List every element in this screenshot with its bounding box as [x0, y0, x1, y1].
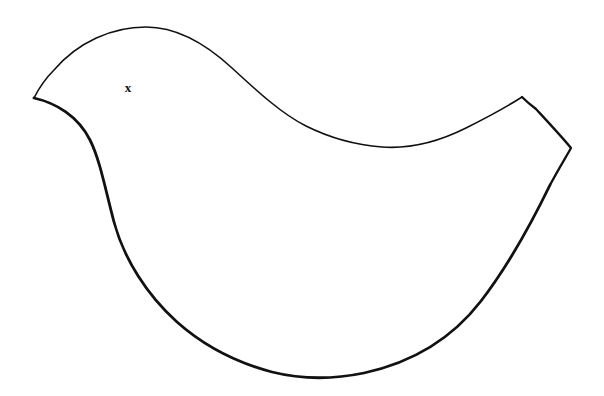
eye-x-mark: x	[125, 80, 132, 95]
bird-outline-drawing: x	[0, 0, 604, 396]
drawing-canvas: x	[0, 0, 604, 396]
